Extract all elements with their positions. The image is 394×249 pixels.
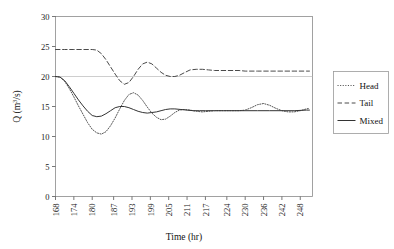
plot-frame <box>56 17 313 197</box>
legend-label-mixed[interactable]: Mixed <box>360 116 384 126</box>
x-tick-label: 224 <box>222 203 232 217</box>
x-tick-label: 193 <box>127 204 137 217</box>
x-tick-label: 230 <box>240 204 250 217</box>
x-tick-label: 174 <box>69 203 79 217</box>
plot-area <box>56 17 313 197</box>
legend-label-tail[interactable]: Tail <box>360 98 374 108</box>
x-tick-label: 211 <box>182 204 192 216</box>
x-axis-title: Time (hr) <box>166 232 202 243</box>
y-tick-label: 30 <box>41 12 50 22</box>
x-tick-label: 205 <box>164 204 174 217</box>
legend-box[interactable]: HeadTailMixed <box>334 72 389 134</box>
x-tick-label: 199 <box>146 204 156 217</box>
x-tick-label: 187 <box>109 204 119 217</box>
x-tick-label: 248 <box>295 204 305 217</box>
chart-canvas: 051015202530 168174180187193199205211217… <box>0 0 394 249</box>
y-tick-label: 15 <box>41 102 50 112</box>
x-tick-label: 180 <box>87 204 97 217</box>
x-tick-label: 242 <box>277 204 287 217</box>
x-tick-label: 236 <box>259 204 269 217</box>
y-tick-label: 25 <box>41 42 50 52</box>
legend-label-head[interactable]: Head <box>360 81 379 91</box>
y-tick-label: 10 <box>41 132 50 142</box>
chart-figure: 051015202530 168174180187193199205211217… <box>0 0 394 249</box>
x-axis-ticks: 1681741801871931992052112172242302362422… <box>51 197 306 217</box>
y-axis-ticks: 051015202530 <box>41 12 56 202</box>
y-tick-label: 0 <box>45 192 49 202</box>
x-tick-label: 217 <box>201 204 211 217</box>
x-tick-label: 168 <box>51 204 61 217</box>
y-tick-label: 20 <box>41 72 50 82</box>
y-axis-title: Q (m3/s) <box>11 90 23 123</box>
y-tick-label: 5 <box>45 162 49 172</box>
